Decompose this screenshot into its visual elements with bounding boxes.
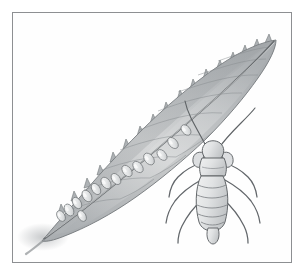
- figure-caption: Leaf with insect eggs and adult bug: [0, 0, 1, 1]
- plate-frame-border: [12, 12, 292, 263]
- bug-thorax: [200, 158, 227, 176]
- illustration-plate: Leaf with insect eggs and adult bug: [0, 0, 305, 276]
- illustration-artwork: [13, 13, 291, 262]
- bug-cauda: [207, 228, 219, 244]
- bug-head: [202, 141, 224, 159]
